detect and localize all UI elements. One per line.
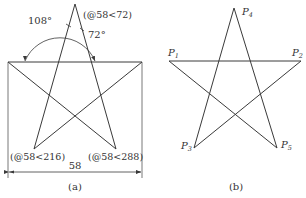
angle-72-label: 72° [88, 29, 106, 40]
coord-label-bottom-right: (@58<288) [88, 151, 143, 162]
diagram-canvas: 108° 72° (@58<72) (@58<216) (@58<288) 58… [0, 0, 306, 198]
point-label-p4: P4 [241, 6, 253, 19]
point-label-p3: P3 [180, 140, 192, 153]
figure-a: 108° 72° (@58<72) (@58<216) (@58<288) 58… [8, 4, 143, 192]
dimension-label: 58 [69, 160, 82, 171]
figure-b: P4 P1 P2 P3 P5 (b) [167, 6, 303, 192]
point-label-p5: P5 [280, 139, 292, 152]
angle-108-label: 108° [28, 15, 52, 26]
caption-a: (a) [68, 181, 82, 192]
point-label-p2: P2 [291, 47, 303, 60]
caption-b: (b) [229, 181, 243, 192]
coord-label-bottom-left: (@58<216) [10, 151, 65, 162]
star-b [169, 8, 301, 148]
point-label-p1: P1 [167, 47, 179, 60]
coord-label-top: (@58<72) [83, 9, 132, 20]
